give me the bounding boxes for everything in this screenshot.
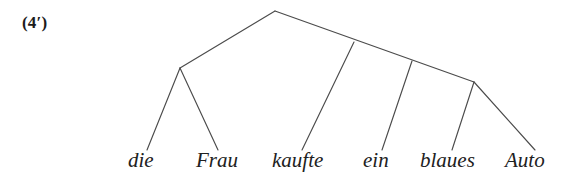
terminal-blaues: blaues: [420, 150, 475, 171]
edge-root-to-left-node: [180, 11, 275, 68]
terminal-kaufte: kaufte: [272, 150, 323, 171]
edge-leaf-blaues: [452, 82, 474, 150]
terminal-die: die: [128, 150, 154, 171]
edge-leaf-die: [147, 68, 180, 150]
figure-canvas: (4′) dieFraukaufteeinblauesAuto: [0, 0, 581, 190]
terminal-word-row: dieFraukaufteeinblauesAuto: [0, 150, 581, 182]
edge-leaf-ein: [382, 61, 412, 150]
tree-edge-group: [147, 11, 535, 150]
terminal-auto: Auto: [505, 150, 545, 171]
terminal-frau: Frau: [196, 150, 238, 171]
edge-leaf-frau: [180, 68, 218, 150]
terminal-ein: ein: [363, 150, 389, 171]
edge-root-to-right-spine: [275, 11, 474, 82]
edge-leaf-auto: [474, 82, 535, 150]
edge-leaf-kaufte: [302, 42, 354, 150]
